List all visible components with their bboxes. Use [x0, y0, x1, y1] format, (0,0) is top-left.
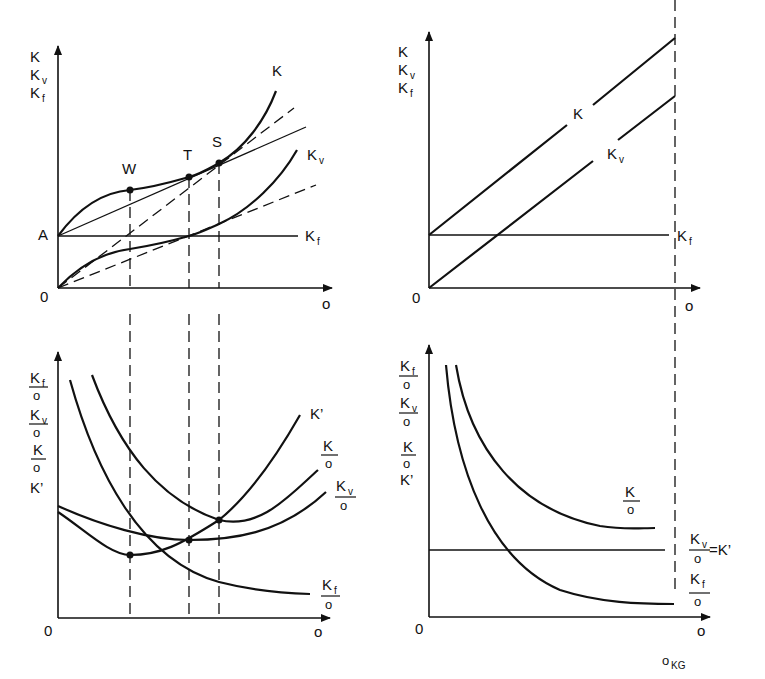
total-cost-curve-k — [58, 91, 276, 236]
svg-text:f: f — [334, 585, 337, 596]
y-axis-label: K Kv Kf — [30, 48, 47, 104]
svg-text:K: K — [30, 66, 40, 83]
panel-bottom-left-unit-costs: Kf o Kv o K o K’ 0 o K’ K o — [29, 352, 356, 640]
svg-text:K: K — [272, 62, 282, 79]
svg-text:K: K — [398, 79, 408, 96]
svg-text:K: K — [398, 61, 408, 78]
svg-text:f: f — [42, 93, 45, 104]
svg-text:o: o — [685, 297, 693, 314]
svg-text:v: v — [348, 486, 353, 497]
svg-text:K’: K’ — [310, 405, 323, 422]
point-s — [216, 160, 223, 167]
svg-text:K: K — [677, 227, 687, 244]
svg-text:K’: K’ — [30, 479, 43, 496]
svg-text:0: 0 — [412, 289, 420, 306]
capacity-output-label: o KG — [662, 653, 686, 671]
svg-text:f: f — [412, 366, 415, 377]
svg-text:v: v — [42, 75, 47, 86]
y-axis-label: K Kv Kf — [398, 43, 415, 99]
svg-text:o: o — [694, 594, 701, 609]
svg-text:o: o — [325, 456, 332, 471]
svg-text:v: v — [702, 539, 707, 550]
svg-text:K: K — [690, 570, 700, 587]
svg-text:o: o — [662, 653, 669, 668]
average-fixed-cost-curve — [70, 380, 310, 594]
svg-text:K: K — [400, 394, 410, 411]
svg-text:o: o — [403, 456, 410, 471]
svg-text:W: W — [122, 160, 137, 177]
marginal-cost-curve — [58, 415, 300, 555]
svg-text:o: o — [403, 377, 410, 392]
svg-text:o: o — [33, 425, 40, 440]
svg-text:K’: K’ — [400, 471, 413, 488]
svg-text:S: S — [212, 133, 222, 150]
svg-text:K: K — [607, 145, 617, 162]
svg-text:K: K — [323, 437, 333, 454]
y-axis-label: Kf o Kv o K o K’ — [399, 357, 418, 488]
svg-text:K: K — [690, 530, 700, 547]
svg-text:K: K — [336, 477, 346, 494]
average-total-cost-curve — [456, 365, 655, 529]
point-t — [186, 174, 193, 181]
svg-text:K: K — [573, 105, 583, 122]
svg-text:o: o — [697, 622, 705, 639]
svg-text:K: K — [322, 576, 332, 593]
svg-text:K: K — [33, 441, 43, 458]
panel-top-right-linear-costs: K Kv Kf 0 o Kf K Kv — [398, 0, 700, 590]
svg-text:K: K — [305, 227, 315, 244]
svg-text:=K’: =K’ — [709, 541, 731, 558]
variable-cost-line-kv — [429, 96, 675, 288]
svg-text:K: K — [30, 369, 40, 386]
svg-text:o: o — [33, 388, 40, 403]
svg-text:v: v — [410, 70, 415, 81]
svg-text:K: K — [400, 357, 410, 374]
y-axis-label: Kf o Kv o K o K’ — [29, 369, 48, 496]
svg-text:K: K — [625, 483, 635, 500]
variable-cost-curve-kv — [58, 150, 297, 288]
point-w — [127, 187, 134, 194]
svg-text:f: f — [702, 579, 705, 590]
svg-text:f: f — [317, 236, 320, 247]
svg-text:K: K — [403, 438, 413, 455]
svg-text:v: v — [319, 155, 324, 166]
svg-text:T: T — [183, 146, 192, 163]
cost-curves-diagram: K Kv Kf 0 o A Kf K Kv W T S — [0, 0, 765, 679]
svg-text:o: o — [694, 551, 701, 566]
svg-text:o: o — [33, 460, 40, 475]
svg-text:o: o — [403, 414, 410, 429]
svg-text:K: K — [30, 48, 40, 65]
panel-top-left-total-costs: K Kv Kf 0 o A Kf K Kv W T S — [30, 46, 332, 312]
svg-text:KG: KG — [671, 660, 686, 671]
svg-text:o: o — [314, 623, 322, 640]
svg-text:K: K — [30, 84, 40, 101]
panel-bottom-right-unit-costs-linear: Kf o Kv o K o K’ 0 o K o Kv o =K’ — [399, 345, 731, 671]
svg-text:f: f — [410, 88, 413, 99]
svg-text:v: v — [412, 403, 417, 414]
svg-text:o: o — [627, 502, 634, 517]
svg-text:0: 0 — [44, 622, 52, 639]
svg-text:K: K — [307, 146, 317, 163]
origin-label: 0 — [40, 288, 48, 305]
svg-text:f: f — [689, 236, 692, 247]
x-axis-label: o — [322, 295, 330, 312]
svg-text:K: K — [30, 406, 40, 423]
total-cost-line-k — [429, 38, 675, 235]
point-a-label: A — [38, 226, 48, 243]
svg-text:0: 0 — [415, 620, 423, 637]
svg-text:o: o — [340, 498, 347, 513]
average-fixed-cost-curve — [446, 365, 674, 604]
tangent-line-from-a — [58, 127, 306, 236]
svg-text:K: K — [398, 43, 408, 60]
svg-text:o: o — [325, 597, 332, 612]
svg-text:v: v — [619, 154, 624, 165]
average-total-cost-curve — [92, 375, 318, 522]
